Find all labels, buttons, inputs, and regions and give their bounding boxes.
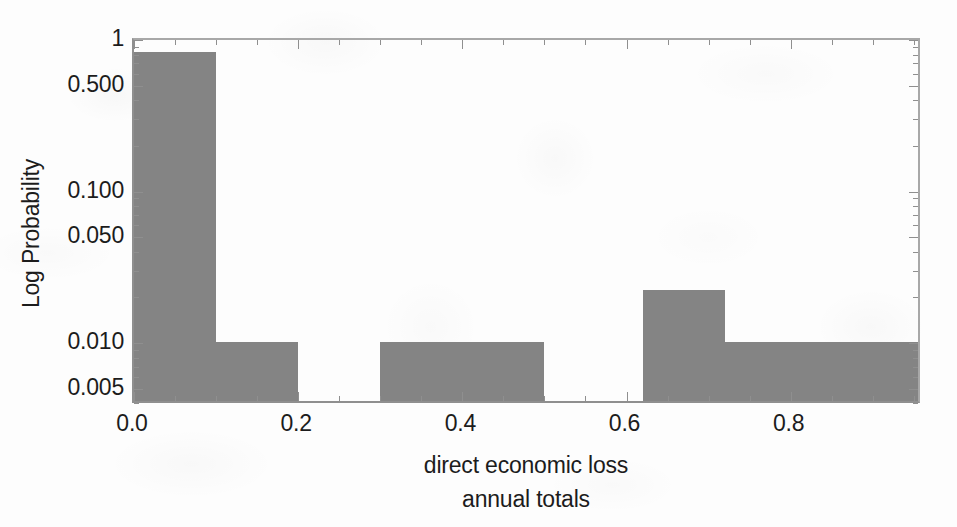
histogram-bar	[134, 52, 216, 401]
y-axis-minor-tick	[134, 215, 139, 216]
x-axis-minor-tick	[914, 396, 915, 401]
y-axis-minor-tick-right	[913, 350, 918, 351]
y-axis-major-tick-right	[909, 86, 918, 87]
y-axis-tick-label: 1	[111, 25, 124, 52]
x-axis-minor-tick-top	[257, 40, 258, 45]
histogram-bar	[643, 290, 725, 401]
x-axis-minor-tick-top	[503, 40, 504, 45]
x-axis-minor-tick-top	[585, 40, 586, 45]
y-axis-minor-tick	[134, 74, 139, 75]
x-axis-minor-tick	[873, 396, 874, 401]
x-axis-minor-tick	[503, 396, 504, 401]
y-axis-tick-label: 0.005	[67, 373, 124, 400]
y-axis-minor-tick-right	[913, 271, 918, 272]
x-axis-minor-tick	[175, 396, 176, 401]
y-axis-tick-label: 0.050	[67, 222, 124, 249]
x-axis-minor-tick-top	[216, 40, 217, 45]
x-axis-tick-label: 0.8	[773, 410, 804, 437]
x-axis-major-tick-top	[791, 40, 792, 49]
x-axis-tick-label: 0.2	[280, 410, 311, 437]
y-axis-minor-tick-right	[913, 358, 918, 359]
y-axis-minor-tick	[134, 377, 139, 378]
y-axis-major-tick-right	[909, 389, 918, 390]
y-axis-minor-tick	[134, 367, 139, 368]
y-axis-minor-tick-right	[913, 367, 918, 368]
y-axis-minor-tick-right	[913, 377, 918, 378]
x-axis-minor-tick-top	[914, 40, 915, 45]
x-axis-major-tick-top	[298, 40, 299, 49]
x-axis-minor-tick	[668, 396, 669, 401]
x-axis-minor-tick-top	[873, 40, 874, 45]
x-axis-tick-label: 0.4	[445, 410, 476, 437]
y-axis-minor-tick	[134, 252, 139, 253]
histogram-figure: Log Probability 10.5000.1000.0500.0100.0…	[0, 0, 957, 527]
y-axis-minor-tick	[134, 297, 139, 298]
y-axis-minor-tick-right	[913, 198, 918, 199]
x-axis-major-tick	[627, 392, 628, 401]
y-axis-major-tick	[134, 237, 143, 238]
y-axis-minor-tick-right	[913, 55, 918, 56]
y-axis-minor-tick	[134, 271, 139, 272]
x-axis-minor-tick	[339, 396, 340, 401]
x-axis-minor-tick	[585, 396, 586, 401]
histogram-bar	[725, 342, 918, 401]
x-axis-major-tick	[462, 392, 463, 401]
x-axis-title-line-2: annual totals	[132, 482, 920, 516]
y-axis-tick-label: 0.500	[67, 70, 124, 97]
y-axis-minor-tick	[134, 63, 139, 64]
y-axis-minor-tick-right	[913, 252, 918, 253]
x-axis-major-tick-top	[627, 40, 628, 49]
x-axis-minor-tick	[216, 396, 217, 401]
y-axis-minor-tick-right	[913, 100, 918, 101]
y-axis-major-tick	[134, 192, 143, 193]
y-axis-minor-tick	[134, 350, 139, 351]
y-axis-minor-tick	[134, 403, 139, 404]
y-axis-minor-tick-right	[913, 63, 918, 64]
x-axis-minor-tick-top	[421, 40, 422, 45]
x-axis-minor-tick-top	[380, 40, 381, 45]
y-axis-minor-tick	[134, 198, 139, 199]
x-axis-minor-tick-top	[709, 40, 710, 45]
y-axis-minor-tick	[134, 358, 139, 359]
x-axis-major-tick	[791, 392, 792, 401]
y-axis-minor-tick	[134, 146, 139, 147]
x-axis-title-line-1: direct economic loss	[424, 452, 628, 478]
y-axis-minor-tick	[134, 55, 139, 56]
x-axis-major-tick	[134, 392, 135, 401]
y-axis-major-tick-right	[909, 192, 918, 193]
y-axis-major-tick-right	[909, 343, 918, 344]
x-axis-minor-tick	[421, 396, 422, 401]
x-axis-minor-tick-top	[544, 40, 545, 45]
y-axis-minor-tick-right	[913, 74, 918, 75]
y-axis-tick-label: 0.100	[67, 176, 124, 203]
x-axis-minor-tick	[380, 396, 381, 401]
y-axis-major-tick-right	[909, 237, 918, 238]
y-axis-major-tick	[134, 40, 143, 41]
x-axis-tick-label: 0.0	[116, 410, 147, 437]
x-axis-tick-label: 0.6	[609, 410, 640, 437]
plot-area	[132, 38, 920, 403]
x-axis-minor-tick-top	[668, 40, 669, 45]
y-axis-minor-tick	[134, 119, 139, 120]
x-axis-major-tick	[298, 392, 299, 401]
y-axis-tick-label: 0.010	[67, 328, 124, 355]
y-axis-minor-tick-right	[913, 403, 918, 404]
y-axis-minor-tick-right	[913, 146, 918, 147]
y-axis-minor-tick-right	[913, 297, 918, 298]
y-axis-minor-tick	[134, 206, 139, 207]
y-axis-major-tick	[134, 389, 143, 390]
x-axis-minor-tick	[544, 396, 545, 401]
y-axis-major-tick	[134, 86, 143, 87]
histogram-bar	[216, 342, 298, 401]
y-axis-minor-tick-right	[913, 225, 918, 226]
x-axis-major-tick-top	[462, 40, 463, 49]
x-axis-title: direct economic loss annual totals	[132, 448, 920, 516]
x-axis-minor-tick-top	[832, 40, 833, 45]
y-axis-minor-tick-right	[913, 215, 918, 216]
x-axis-minor-tick	[832, 396, 833, 401]
x-axis-tick-labels: 0.00.20.40.60.8	[132, 410, 920, 442]
x-axis-minor-tick	[257, 396, 258, 401]
x-axis-minor-tick-top	[750, 40, 751, 45]
bars-layer	[134, 40, 918, 401]
x-axis-minor-tick-top	[339, 40, 340, 45]
